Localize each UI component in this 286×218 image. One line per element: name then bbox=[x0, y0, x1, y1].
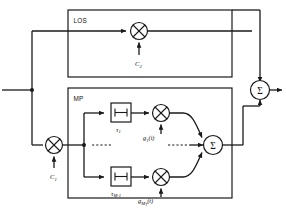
tap1-delay-label: τ1 bbox=[116, 126, 121, 135]
mp-block-label: MP bbox=[74, 95, 84, 102]
mp-multiplier-node bbox=[46, 137, 63, 154]
los-block-label: LOS bbox=[74, 17, 87, 24]
tap1-gain-label: g1(t) bbox=[143, 134, 154, 143]
output-summation-symbol: Σ bbox=[257, 86, 263, 96]
tap1-multiplier-node bbox=[153, 105, 170, 122]
block-diagram-canvas: LOS MP C2 bbox=[0, 0, 286, 218]
mp-summation-node: Σ bbox=[204, 136, 223, 155]
los-multiplier-node bbox=[131, 23, 148, 40]
los-block-container bbox=[68, 10, 232, 77]
mp-gain-label: C1 bbox=[50, 173, 57, 182]
tapM-multiplier-node bbox=[153, 169, 170, 186]
tapM-delay-label: τM-1 bbox=[111, 190, 121, 199]
output-summation-node: Σ bbox=[251, 81, 270, 100]
tapM-to-sum-line bbox=[170, 153, 203, 178]
tap1-delay-block bbox=[111, 103, 131, 122]
tapM-delay-block bbox=[111, 167, 131, 186]
tap1-to-sum-line bbox=[170, 113, 203, 138]
mp-summation-symbol: Σ bbox=[210, 141, 216, 151]
diagram-svg: LOS MP C2 bbox=[0, 0, 286, 218]
los-gain-label: C2 bbox=[135, 60, 142, 69]
